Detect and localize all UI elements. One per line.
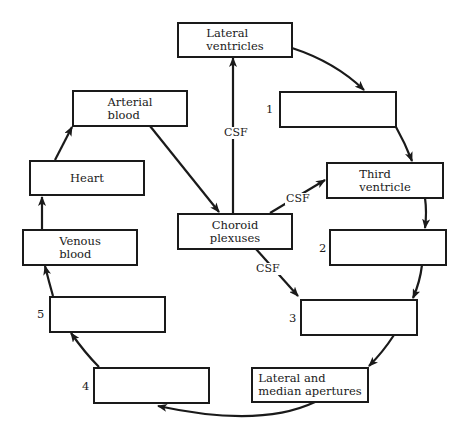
blank-5-number: 5 — [37, 308, 44, 320]
box-blank-5[interactable] — [49, 296, 166, 333]
box-choroid-plexuses: Choroid plexuses — [177, 213, 293, 250]
box-text: Arterial — [108, 96, 153, 109]
arrow-1-to-third-ventricle — [396, 127, 412, 161]
box-blank-4[interactable] — [93, 367, 210, 404]
box-venous-blood: Venous blood — [22, 229, 138, 266]
box-blank-1[interactable] — [279, 91, 397, 128]
box-text: blood — [59, 248, 101, 261]
csf-label-right: CSF — [285, 193, 311, 205]
box-text: ventricles — [206, 40, 263, 53]
arrow-5-to-venous — [45, 266, 53, 296]
blank-4-number: 4 — [82, 380, 89, 392]
blank-1-number: 1 — [266, 103, 273, 115]
box-blank-3[interactable] — [300, 299, 418, 336]
arrow-arterial-to-choroid — [150, 126, 219, 212]
box-heart: Heart — [29, 160, 145, 196]
box-text: ventricle — [359, 181, 410, 194]
box-third-ventricle: Third ventricle — [326, 162, 444, 199]
arrow-third-ventricle-to-2 — [425, 198, 426, 228]
box-apertures: Lateral and median apertures — [251, 367, 369, 403]
blank-2-number: 2 — [319, 242, 326, 254]
box-lateral-ventricles: Lateral ventricles — [177, 22, 293, 58]
box-text: Venous — [59, 235, 101, 248]
csf-label-up: CSF — [223, 127, 249, 139]
box-text: plexuses — [210, 232, 260, 245]
box-text: Choroid — [210, 219, 260, 232]
arrow-apertures-to-4 — [158, 402, 315, 416]
box-text: median apertures — [258, 385, 361, 398]
box-text: Heart — [70, 172, 104, 185]
arrow-lateral-ventricles-to-1 — [292, 48, 364, 90]
arrow-3-to-apertures — [369, 335, 394, 366]
arrow-4-to-5 — [71, 333, 99, 367]
arrow-heart-to-arterial — [55, 127, 72, 160]
box-arterial-blood: Arterial blood — [72, 90, 188, 127]
blank-3-number: 3 — [289, 312, 296, 324]
arrow-2-to-3 — [413, 265, 422, 298]
box-text: Third — [359, 168, 410, 181]
box-text: blood — [108, 109, 153, 122]
csf-label-down: CSF — [255, 263, 281, 275]
box-blank-2[interactable] — [329, 229, 447, 266]
